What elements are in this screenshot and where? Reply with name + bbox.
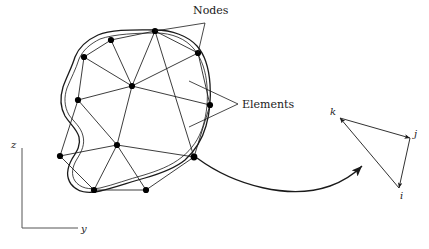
triangle-edge-k-to-j <box>340 118 410 138</box>
mesh-nodes <box>57 28 213 193</box>
nodes-callout-label: Nodes <box>193 4 229 17</box>
mesh-edge <box>111 40 132 86</box>
mesh-edge <box>60 100 78 156</box>
detail-element-triangle: k j i <box>330 106 417 201</box>
diagram-canvas: z y <box>0 0 429 249</box>
mesh-edge <box>78 57 84 100</box>
mesh-node <box>143 187 149 193</box>
mesh-node <box>81 54 87 60</box>
magnify-arrow <box>197 158 362 191</box>
mesh-node <box>75 97 81 103</box>
mesh-edge <box>84 57 132 86</box>
nodes-leader-line-lower <box>198 23 205 53</box>
mesh-edge <box>78 86 132 100</box>
mesh-node <box>108 37 114 43</box>
mesh-node <box>191 154 198 161</box>
axis-label-z: z <box>10 139 17 150</box>
mesh-edge <box>132 31 155 86</box>
triangle-vertex-label-k: k <box>330 106 336 117</box>
mesh-edge <box>132 86 210 105</box>
nodes-leader-line-upper <box>155 23 205 31</box>
fem-mesh-diagram: z y <box>0 0 429 249</box>
mesh-edge <box>194 105 210 157</box>
mesh-edge <box>94 145 117 190</box>
mesh-edge <box>132 53 198 86</box>
mesh-edge <box>155 31 198 53</box>
mesh-edge <box>146 157 194 190</box>
mesh-edge <box>84 40 111 57</box>
nodes-callout: Nodes <box>155 4 229 53</box>
mesh-edge <box>117 145 146 190</box>
elements-leader-line-lower <box>189 104 238 127</box>
elements-callout-label: Elements <box>242 98 295 111</box>
mesh-edge <box>155 31 194 157</box>
mesh-edge <box>198 53 210 105</box>
elements-leader-line-upper <box>189 81 238 104</box>
axis-label-y: y <box>80 223 87 234</box>
mesh-edge <box>111 31 155 40</box>
triangle-edge-j-to-i <box>399 138 410 188</box>
mesh-node <box>129 83 135 89</box>
mesh-node <box>57 153 63 159</box>
mesh-edge <box>78 100 117 145</box>
mesh-node <box>91 187 97 193</box>
mesh-edge <box>117 86 132 145</box>
mesh-node <box>114 142 120 148</box>
magnify-arrow-path <box>197 158 362 191</box>
mesh-node <box>207 102 213 108</box>
mesh-edge <box>60 145 117 156</box>
triangle-vertex-label-j: j <box>412 128 417 139</box>
triangle-vertex-label-i: i <box>400 190 403 201</box>
axis-corner-line <box>22 148 78 228</box>
mesh-edge <box>117 145 194 157</box>
mesh-edge <box>60 156 94 190</box>
